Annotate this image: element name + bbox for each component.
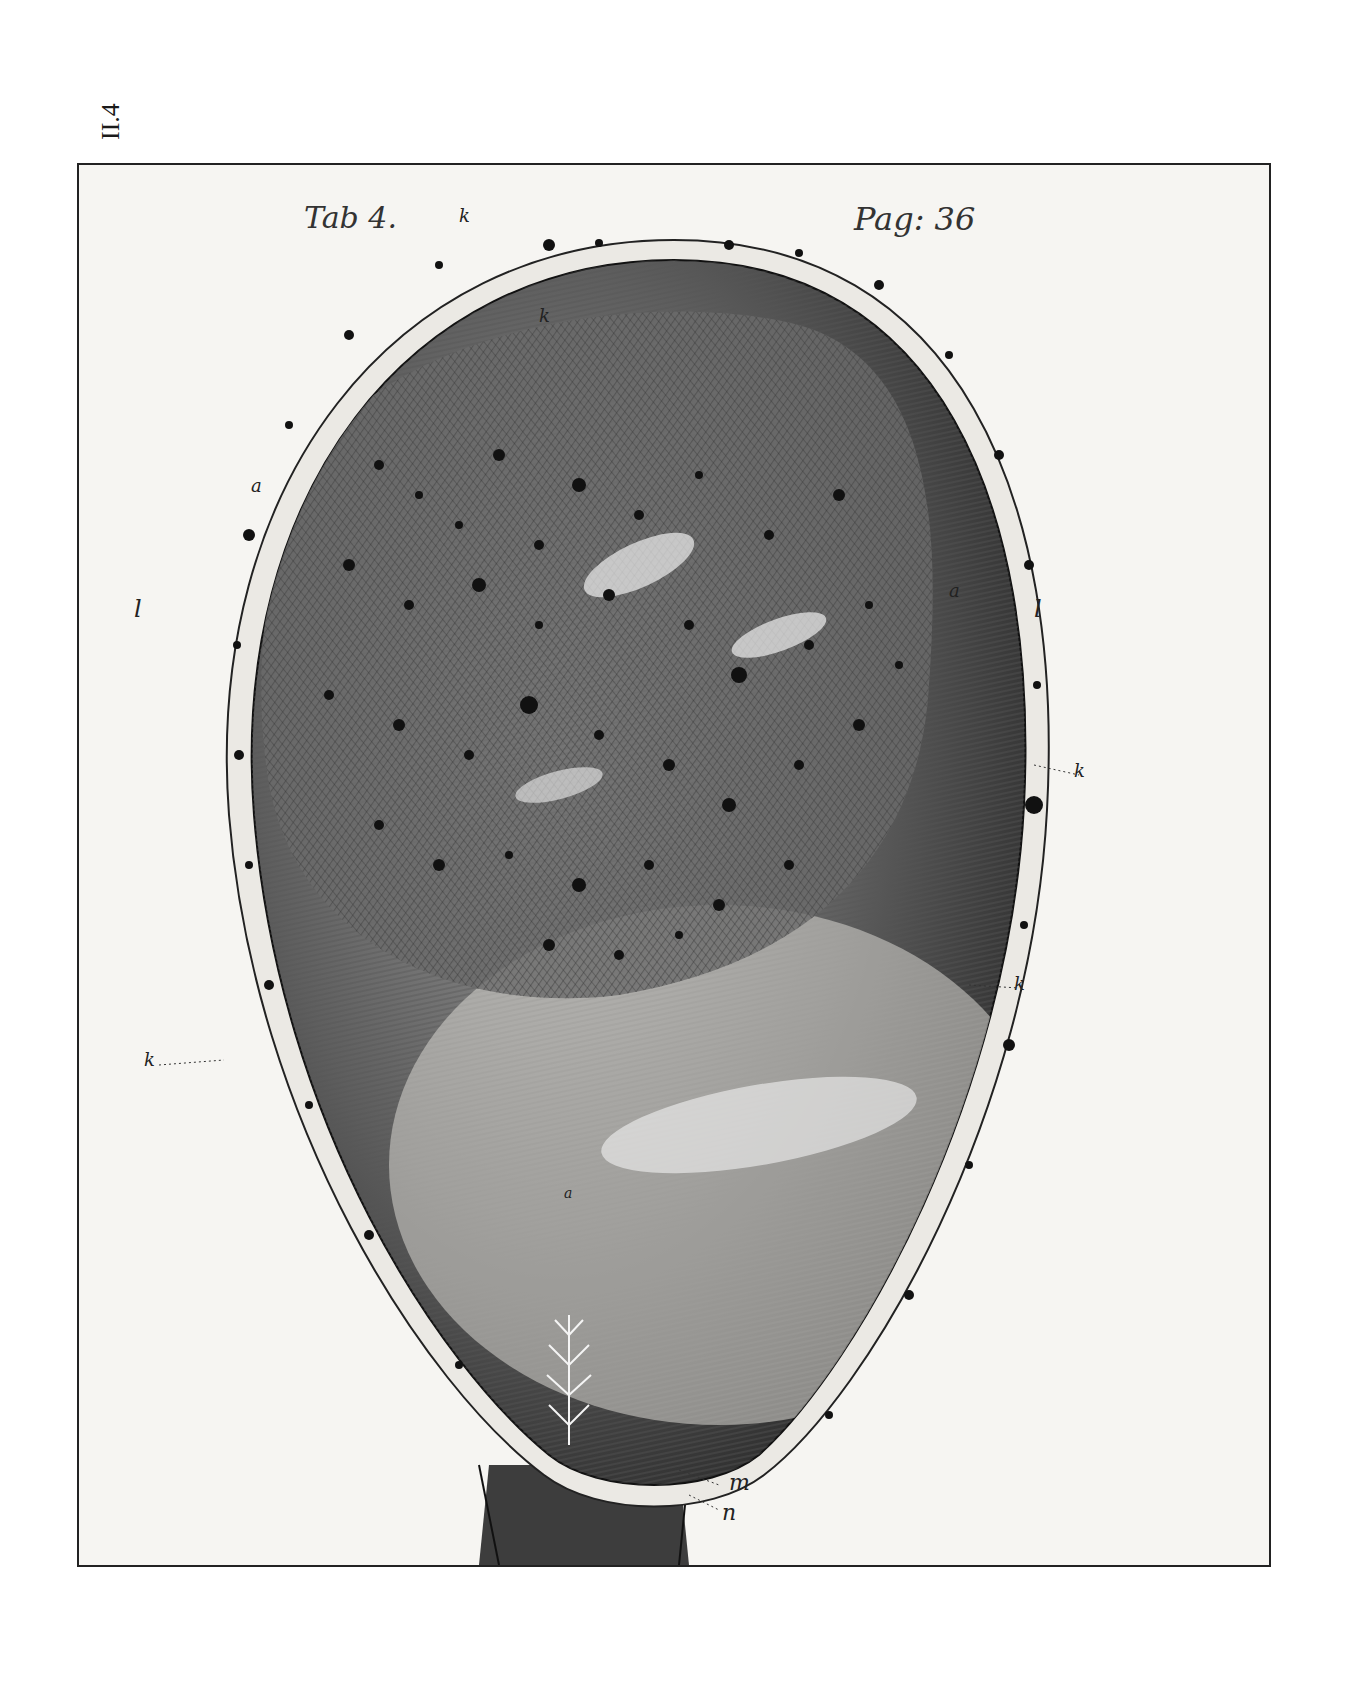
marker-k-right-lower: k <box>1014 973 1025 994</box>
egg-illustration <box>79 165 1269 1565</box>
marker-l-left: l <box>134 595 142 623</box>
marker-k-top: k <box>459 205 470 226</box>
marker-k-inner: k <box>539 305 550 326</box>
marker-a-center: a <box>564 1185 572 1201</box>
marker-m: m <box>729 1470 750 1495</box>
tab-label: Tab 4. <box>304 200 397 235</box>
page-label: Pag: 36 <box>854 200 975 238</box>
marker-k-right-upper: k <box>1074 760 1085 781</box>
plate-number-label: II.4 <box>96 103 126 140</box>
marker-a-left: a <box>251 475 262 496</box>
marker-l-right: l <box>1034 595 1042 623</box>
engraving-plate: Tab 4. Pag: 36 k k l l a a k k k a m n <box>77 163 1271 1567</box>
marker-k-left-lower: k <box>144 1049 155 1070</box>
marker-a-right: a <box>949 580 960 601</box>
marker-n: n <box>722 1500 736 1525</box>
